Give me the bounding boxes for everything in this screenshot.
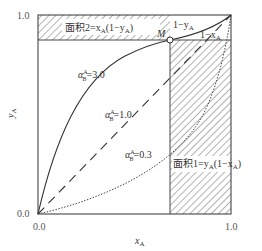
alpha-3-label: αAB=3.0 (78, 69, 105, 82)
y-axis-label: yA (5, 108, 18, 119)
alpha-0-3-label: αAB=0.3 (125, 149, 152, 162)
y-tick-0: 0.0 (17, 208, 30, 219)
point-m-label: M (156, 28, 166, 39)
alpha-1-label: αAB=1.0 (105, 109, 132, 122)
area-1-hatch (170, 40, 231, 214)
x-axis-label: xA (134, 235, 145, 248)
y-tick-1: 1.0 (17, 10, 30, 21)
x-tick-0: 0.0 (33, 221, 46, 232)
vle-diagram: M 面积2=xA(1−yA) 面积1=yA(1−xA) 1−yA 1−xA αA… (0, 0, 262, 251)
x-tick-1: 1.0 (225, 221, 238, 232)
point-m (167, 37, 173, 43)
